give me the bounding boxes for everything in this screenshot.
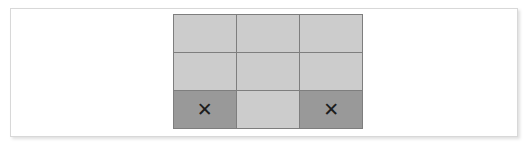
grid-cell-r1c3[interactable] [300, 15, 362, 52]
screenshot-root: ✕✕ [0, 0, 530, 145]
cross-icon: ✕ [323, 100, 339, 119]
grid-cell-r3c1[interactable]: ✕ [174, 91, 236, 128]
grid-cell-r1c1[interactable] [174, 15, 236, 52]
grid-cell-r2c3[interactable] [300, 53, 362, 90]
grid-cell-r1c2[interactable] [237, 15, 299, 52]
cross-icon: ✕ [197, 100, 213, 119]
grid-cell-r3c3[interactable]: ✕ [300, 91, 362, 128]
grid-cell-r3c2[interactable] [237, 91, 299, 128]
grid-cell-r2c2[interactable] [237, 53, 299, 90]
grid-container: ✕✕ [173, 14, 363, 129]
content-panel: ✕✕ [10, 8, 518, 137]
grid-cell-r2c1[interactable] [174, 53, 236, 90]
grid-3x3[interactable]: ✕✕ [173, 14, 363, 129]
